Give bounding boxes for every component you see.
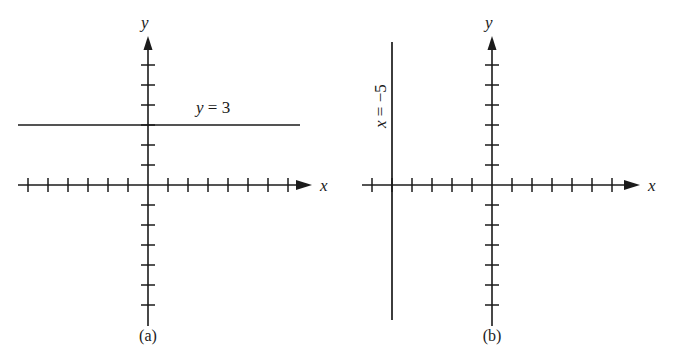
y-axis-arrowhead-b (488, 36, 497, 50)
equation-label-x-equals-minus-5: x = −5 (372, 84, 389, 128)
panel-a-graph (0, 0, 340, 360)
y-axis-label-b: y (485, 14, 493, 31)
two-panel-coordinate-figure: x y y = 3 (a) (0, 0, 677, 360)
caption-a: (a) (130, 328, 166, 344)
x-axis-label-a: x (320, 177, 328, 194)
caption-b: (b) (474, 328, 510, 344)
x-axis-arrowhead-b (624, 180, 640, 190)
equation-label-y-equals-3: y = 3 (196, 99, 230, 116)
x-axis-label-b: x (648, 177, 656, 194)
y-axis-arrowhead-a (144, 36, 153, 50)
panel-a: x y y = 3 (a) (0, 0, 340, 360)
equation-remainder-a: = 3 (204, 98, 231, 117)
panel-b: x y x = −5 (b) (340, 0, 677, 360)
equation-variable-y: y (196, 98, 204, 117)
equation-remainder-b: = −5 (371, 84, 390, 120)
y-axis-label-a: y (141, 14, 149, 31)
x-axis-arrowhead-a (296, 180, 312, 190)
panel-b-graph (340, 0, 677, 360)
equation-variable-x: x (371, 120, 390, 128)
